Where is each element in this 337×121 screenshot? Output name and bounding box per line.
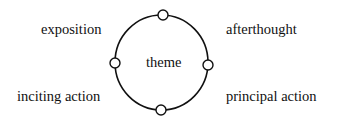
label-inciting-action: inciting action xyxy=(17,89,100,104)
node-right xyxy=(203,60,213,70)
node-left xyxy=(110,58,120,68)
node-top xyxy=(158,10,168,20)
label-exposition: exposition xyxy=(41,22,101,37)
label-principal-action: principal action xyxy=(226,89,317,104)
node-bottom xyxy=(156,105,166,115)
label-theme: theme xyxy=(146,55,181,70)
label-afterthought: afterthought xyxy=(226,22,297,37)
